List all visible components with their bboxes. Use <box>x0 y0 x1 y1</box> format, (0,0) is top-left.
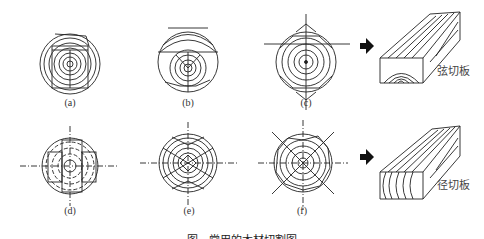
log-cross-section-d <box>20 126 118 206</box>
arrow-right-icon <box>360 38 374 54</box>
log-cross-section-c <box>264 14 350 110</box>
panel-label-a: (a) <box>64 97 75 108</box>
panel-label-c: (c) <box>300 97 311 108</box>
log-cross-section-b <box>158 28 218 92</box>
log-cross-section-a <box>40 34 100 94</box>
panel-label-f: (f) <box>297 205 307 216</box>
panel-label-b: (b) <box>182 97 194 108</box>
panel-label-d: (d) <box>64 205 76 216</box>
log-cross-section-e <box>140 122 238 206</box>
log-cross-section-f <box>258 120 348 210</box>
panel-label-e: (e) <box>183 205 194 216</box>
quarter-sawn-label: 径切板 <box>437 176 470 192</box>
flat-sawn-label: 弦切板 <box>437 62 470 78</box>
figure-caption: 图 · 常用的木材切割图 <box>187 231 297 239</box>
sawing-diagram <box>0 0 484 239</box>
arrow-right-icon <box>360 149 374 165</box>
